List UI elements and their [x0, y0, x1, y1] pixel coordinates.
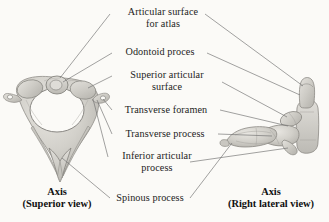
leader-inferior-articular-right: [190, 148, 288, 162]
label-line-2: surface: [130, 81, 203, 93]
caption-lateral-view: Axis (Right lateral view): [228, 186, 314, 210]
label-line-1: Articular surface: [128, 6, 198, 18]
caption-superior-view: Axis (Superior view): [23, 186, 92, 210]
label-line-1: Inferior articular: [122, 150, 191, 162]
leader-spinous-right: [190, 143, 232, 198]
caption-title: Axis: [228, 186, 314, 198]
odontoid-process-facet: [50, 80, 62, 90]
leader-odontoid-right: [207, 53, 300, 95]
label-inferior-articular-process: Inferior articular process: [122, 150, 191, 173]
label-articular-surface-for-atlas: Articular surface for atlas: [128, 6, 198, 29]
left-transverse-foramen: [7, 95, 12, 99]
leader-articular-surface-atlas-left: [60, 14, 110, 78]
label-line-2: process: [122, 162, 191, 174]
spinous-process-tip: [220, 140, 229, 147]
label-spinous-process: Spinous process: [116, 192, 183, 204]
superior-view-drawing: [3, 76, 109, 182]
label-line-1: Transverse foramen: [125, 104, 208, 116]
label-line-1: Transverse process: [125, 128, 204, 140]
label-superior-articular-surface: Superior articular surface: [130, 69, 203, 92]
label-line-1: Superior articular: [130, 69, 203, 81]
label-transverse-process: Transverse process: [125, 128, 204, 140]
leader-articular-surface-atlas-right: [205, 14, 303, 86]
leader-superior-articular-left: [88, 76, 112, 88]
caption-subtitle: (Right lateral view): [228, 198, 314, 210]
label-transverse-foramen: Transverse foramen: [125, 104, 208, 116]
leader-transverse-process-left: [97, 100, 112, 134]
leader-superior-articular-right: [222, 82, 287, 117]
label-line-2: for atlas: [128, 18, 198, 30]
leader-odontoid-left: [63, 53, 112, 82]
caption-title: Axis: [23, 186, 92, 198]
label-line-1: Spinous process: [116, 192, 183, 204]
lateral-odontoid-process: [299, 78, 314, 108]
anatomy-figure: Articular surface for atlas Odontoid pro…: [0, 0, 329, 222]
label-odontoid-process: Odontoid proces: [125, 46, 194, 58]
label-line-1: Odontoid proces: [125, 46, 194, 58]
caption-subtitle: (Superior view): [23, 198, 92, 210]
